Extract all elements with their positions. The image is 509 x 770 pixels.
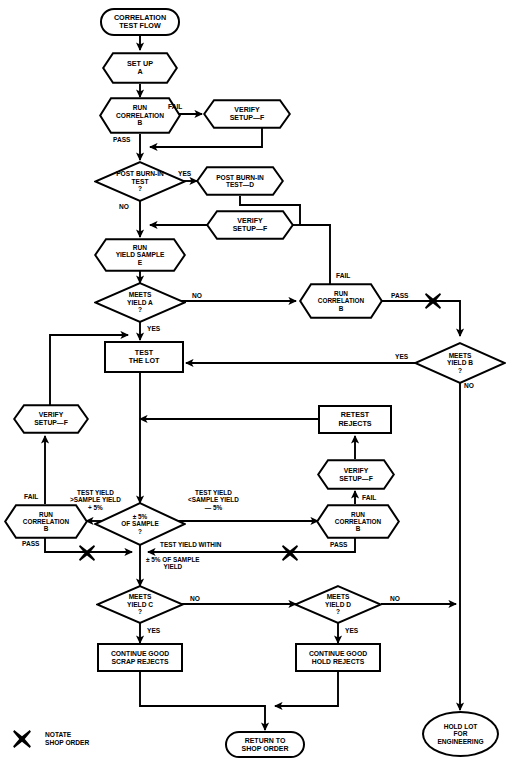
edge-label-yes-yield-a: YES [147, 325, 160, 333]
node-continue-good-hold-rejects[interactable]: CONTINUE GOOD HOLD REJECTS [295, 643, 381, 672]
node-pct5-of-sample-label: ± 5% OF SAMPLE ? [121, 513, 158, 535]
node-test-the-lot-label: TEST THE LOT [129, 349, 160, 365]
node-run-correlation-b-4-label: RUN CORRELATION B [335, 511, 381, 533]
node-test-the-lot[interactable]: TEST THE LOT [104, 341, 184, 373]
edge-label-no-yield-b: NO [464, 382, 474, 390]
edge-label-yes-burn-in: YES [178, 170, 191, 178]
node-run-correlation-b-1-label: RUN CORRELATION B [116, 104, 164, 126]
node-retest-rejects[interactable]: RETEST REJECTS [318, 405, 392, 434]
x-mark-icon-1 [424, 292, 442, 310]
edge-label-fail-2: FAIL [336, 272, 350, 280]
node-run-correlation-b-4[interactable]: RUN CORRELATION B [316, 504, 400, 539]
node-post-burn-in-test-d-label: POST BURN-IN TEST—D [216, 174, 264, 189]
node-verify-setup-f-4-label: VERIFY SETUP—F [339, 467, 373, 482]
flowchart-canvas: CORRELATION TEST FLOW SET UP A RUN CORRE… [0, 0, 509, 770]
node-run-correlation-b-2[interactable]: RUN CORRELATION B [299, 283, 383, 319]
node-post-burn-in-test-d[interactable]: POST BURN-IN TEST—D [196, 166, 284, 196]
node-verify-setup-f-1[interactable]: VERIFY SETUP—F [203, 99, 291, 129]
node-continue-good-scrap-rejects-label: CONTINUE GOOD SCRAP REJECTS [111, 650, 169, 665]
edge-label-pass-left: PASS [22, 540, 39, 548]
edge-label-pass-2: PASS [391, 292, 408, 300]
edge-label-no-yield-c: NO [190, 595, 200, 603]
edge-label-test-yield-within-2: ± 5% OF SAMPLE YIELD [146, 556, 200, 571]
node-run-yield-sample-e-label: RUN YIELD SAMPLE E [116, 244, 165, 266]
node-meets-yield-d[interactable]: MEETS YIELD D ? [294, 585, 382, 624]
node-hold-lot-for-engineering[interactable]: HOLD LOT FOR ENGINEERING [422, 711, 499, 757]
legend-text: NOTATE SHOP ORDER [45, 731, 89, 747]
x-mark-icon-3 [281, 544, 299, 562]
node-verify-setup-f-3[interactable]: VERIFY SETUP—F [13, 404, 89, 434]
edge-label-no-yield-d: NO [390, 595, 400, 603]
edge-label-test-yield-within: TEST YIELD WITHIN [160, 541, 221, 548]
x-mark-icon-legend [12, 729, 32, 749]
node-meets-yield-c[interactable]: MEETS YIELD C ? [96, 585, 184, 624]
edge-label-fail-right: FAIL [362, 494, 376, 502]
node-hold-lot-for-engineering-label: HOLD LOT FOR ENGINEERING [437, 723, 483, 745]
node-return-to-shop-order[interactable]: RETURN TO SHOP ORDER [225, 731, 305, 758]
edge-label-test-yield-high: TEST YIELD >SAMPLE YIELD + 5% [70, 489, 121, 511]
node-verify-setup-f-2-label: VERIFY SETUP—F [233, 217, 268, 233]
edge-label-fail-left: FAIL [24, 493, 38, 501]
node-meets-yield-b[interactable]: MEETS YIELD B ? [414, 342, 506, 384]
node-continue-good-scrap-rejects[interactable]: CONTINUE GOOD SCRAP REJECTS [97, 643, 183, 672]
node-verify-setup-f-2[interactable]: VERIFY SETUP—F [206, 210, 294, 240]
edge-label-pass-right: PASS [330, 541, 347, 549]
node-start[interactable]: CORRELATION TEST FLOW [100, 8, 180, 36]
node-meets-yield-b-label: MEETS YIELD B ? [447, 352, 473, 374]
node-start-label: CORRELATION TEST FLOW [114, 14, 166, 30]
edge-label-test-yield-low: TEST YIELD <SAMPLE YIELD — 5% [188, 489, 239, 511]
node-setup-a[interactable]: SET UP A [102, 52, 178, 84]
node-post-burn-in-test[interactable]: POST BURN-IN TEST ? [94, 161, 186, 202]
node-verify-setup-f-4[interactable]: VERIFY SETUP—F [317, 459, 395, 490]
edge-label-no-yield-a: NO [192, 292, 202, 300]
x-mark-icon-2 [78, 544, 96, 562]
edge-label-pass-1: PASS [113, 136, 130, 144]
node-run-correlation-b-3-label: RUN CORRELATION B [23, 511, 69, 533]
node-verify-setup-f-1-label: VERIFY SETUP—F [230, 106, 265, 122]
node-meets-yield-d-label: MEETS YIELD D ? [325, 593, 351, 615]
edge-label-no-burn-in: NO [119, 203, 129, 211]
node-meets-yield-c-label: MEETS YIELD C ? [127, 593, 153, 615]
edge-label-yes-yield-c: YES [147, 627, 160, 635]
edge-label-fail-1: FAIL [168, 103, 182, 111]
node-meets-yield-a[interactable]: MEETS YIELD A ? [94, 282, 186, 323]
node-continue-good-hold-rejects-label: CONTINUE GOOD HOLD REJECTS [309, 650, 367, 665]
node-run-yield-sample-e[interactable]: RUN YIELD SAMPLE E [94, 238, 186, 272]
edge-label-yes-yield-b: YES [395, 353, 408, 361]
node-setup-a-label: SET UP A [127, 60, 153, 76]
node-meets-yield-a-label: MEETS YIELD A ? [127, 291, 153, 313]
node-retest-rejects-label: RETEST REJECTS [338, 411, 371, 427]
node-run-correlation-b-2-label: RUN CORRELATION B [318, 290, 364, 312]
node-return-to-shop-order-label: RETURN TO SHOP ORDER [242, 737, 289, 753]
edge-label-yes-yield-d: YES [345, 627, 358, 635]
node-post-burn-in-test-label: POST BURN-IN TEST ? [116, 170, 164, 192]
node-verify-setup-f-3-label: VERIFY SETUP—F [34, 411, 68, 426]
